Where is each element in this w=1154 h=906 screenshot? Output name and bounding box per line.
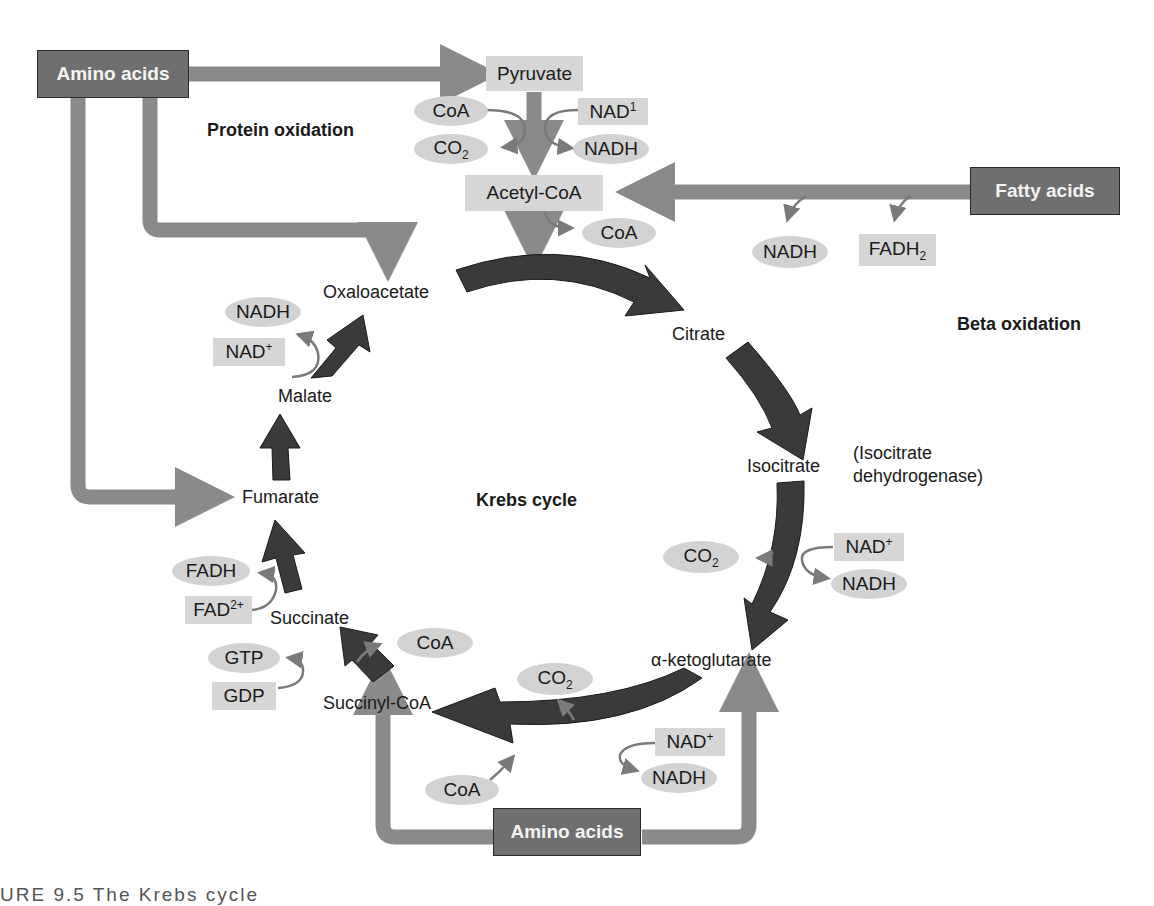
fadh2-box: FADH2	[859, 234, 936, 266]
beta-nadh-oval: NADH	[752, 236, 828, 268]
gtp-oval: GTP	[208, 643, 280, 673]
akg-co2-oval: CO2	[517, 663, 593, 695]
isocitrate-label: Isocitrate	[747, 456, 820, 477]
fatty-acids-label: Fatty acids	[995, 180, 1094, 202]
amino-to-fumarate-arrow	[78, 98, 205, 497]
gtp-label: GTP	[224, 647, 263, 669]
nad-label: NAD+	[845, 535, 892, 558]
gdp-label: GDP	[223, 685, 264, 707]
nadh-label: NADH	[842, 573, 896, 595]
fadh-oval: FADH	[172, 556, 250, 586]
coa-label: CoA	[601, 222, 638, 244]
beta-oxidation-label: Beta oxidation	[957, 314, 1081, 335]
coa-in-oval: CoA	[414, 96, 488, 126]
oxaloacetate-label: Oxaloacetate	[323, 282, 429, 303]
nad-in-box: NAD1	[578, 98, 648, 125]
co2-label: CO2	[683, 545, 718, 570]
acetyl-coa-box: Acetyl-CoA	[465, 175, 603, 211]
protein-oxidation-label: Protein oxidation	[207, 120, 354, 141]
akg-nad-box: NAD+	[655, 728, 725, 756]
malate-nadh-oval: NADH	[225, 297, 301, 327]
co2-label: CO2	[433, 137, 468, 162]
succinate-label: Succinate	[270, 608, 349, 629]
pyruvate-box: Pyruvate	[486, 56, 583, 91]
malate-nad-box: NAD+	[213, 338, 285, 366]
fadh2-label: FADH2	[869, 238, 926, 263]
amino-acids-source-top: Amino acids	[37, 50, 189, 98]
malate-label: Malate	[278, 386, 332, 407]
fadh-label: FADH	[186, 560, 237, 582]
pyruvate-label: Pyruvate	[497, 63, 572, 85]
isocitrate-nad-box: NAD+	[834, 533, 904, 561]
nadh-label: NADH	[236, 301, 290, 323]
nad-label: NAD+	[666, 730, 713, 753]
fad-label: FAD2+	[193, 598, 244, 621]
nadh-label: NADH	[584, 138, 638, 160]
nad-label: NAD+	[225, 340, 272, 363]
citrate-label: Citrate	[672, 324, 725, 345]
amino-acids-label: Amino acids	[57, 63, 170, 85]
co2-out-oval: CO2	[414, 134, 488, 164]
co2-label: CO2	[537, 667, 572, 692]
figure-caption-partial: URE 9.5 The Krebs cycle	[0, 884, 259, 906]
akg-coa-in-oval: CoA	[425, 775, 499, 805]
enzyme-note-line2: dehydrogenase)	[853, 466, 983, 487]
coa-label: CoA	[444, 779, 481, 801]
fatty-acids-source: Fatty acids	[970, 167, 1120, 215]
alpha-ketoglutarate-label: α-ketoglutarate	[651, 650, 771, 671]
fumarate-label: Fumarate	[242, 487, 319, 508]
succinyl-coa-label: Succinyl-CoA	[323, 693, 431, 714]
krebs-cycle-label: Krebs cycle	[476, 490, 577, 511]
akg-nadh-oval: NADH	[641, 763, 717, 793]
isocitrate-nadh-oval: NADH	[831, 569, 907, 599]
isocitrate-co2-oval: CO2	[663, 541, 739, 573]
nadh-out-oval: NADH	[573, 134, 649, 164]
amino-acids-source-bottom: Amino acids	[493, 808, 641, 856]
acetyl-coa-label: Acetyl-CoA	[486, 182, 581, 204]
gdp-box: GDP	[212, 682, 276, 710]
nadh-label: NADH	[763, 241, 817, 263]
fad-box: FAD2+	[185, 596, 252, 624]
nadh-label: NADH	[652, 767, 706, 789]
amino-acids-label: Amino acids	[511, 821, 624, 843]
enzyme-note-line1: (Isocitrate	[853, 443, 932, 464]
coa-out-oval: CoA	[582, 218, 656, 248]
coa-label: CoA	[433, 100, 470, 122]
succinyl-coa-out-oval: CoA	[397, 628, 473, 658]
coa-label: CoA	[417, 632, 454, 654]
nad-label: NAD1	[590, 100, 637, 123]
